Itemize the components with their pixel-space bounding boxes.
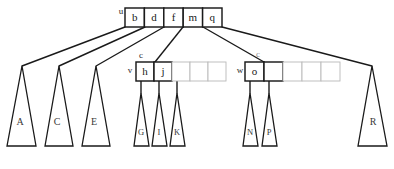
subtree-e-triangle [82, 66, 110, 146]
subtree-g-label: G [138, 127, 144, 137]
node-root: bdfmqu [119, 6, 222, 27]
subtree-i: I [152, 93, 167, 146]
subtree-p: P [262, 93, 277, 146]
node-right_child-cell-4[interactable] [321, 62, 340, 81]
subtree-g: G [134, 93, 149, 146]
nodes-layer: bdfmquhjvcowc [119, 6, 340, 81]
node-left_child-cell-4[interactable] [208, 62, 226, 81]
subtree-r: R [358, 66, 387, 146]
subtree-r-label: R [370, 116, 377, 127]
subtree-k: K [170, 93, 185, 146]
subtree-k-triangle [170, 93, 185, 146]
node-root-key-3: m [189, 11, 198, 23]
subtree-g-triangle [134, 93, 149, 146]
edge-root-to-r [222, 27, 372, 66]
edge-root-to-e [96, 27, 164, 66]
edge-root-to-w [203, 27, 264, 62]
subtree-n-triangle [243, 93, 258, 146]
subtree-n: N [243, 93, 258, 146]
node-root-key-2: f [172, 11, 176, 23]
subtree-e-label: E [91, 116, 97, 127]
subtree-c-label: C [54, 116, 61, 127]
subtree-k-label: K [174, 127, 181, 137]
node-root-key-4: q [210, 11, 216, 23]
btree-canvas: ACEGIKNPR bdfmquhjvcowc [0, 0, 394, 169]
btree-figure: ACEGIKNPR bdfmquhjvcowc [0, 0, 394, 169]
subtree-r-triangle [358, 66, 387, 146]
node-right_child-cell-2[interactable] [283, 62, 302, 81]
node-right_child-cell-1[interactable] [264, 62, 283, 81]
node-right_child-name-label: w [237, 65, 244, 75]
node-left_child-key-1: j [160, 65, 164, 77]
subtree-p-label: P [267, 127, 272, 137]
subtree-a-triangle [7, 66, 36, 146]
edges-layer [22, 27, 372, 93]
subtree-n-label: N [247, 127, 253, 137]
node-left_child: hjvc [128, 50, 226, 81]
node-left_child-cell-2[interactable] [172, 62, 190, 81]
node-root-name-label: u [119, 6, 124, 16]
node-left_child-name-label: v [128, 65, 133, 75]
subtree-p-triangle [262, 93, 277, 146]
subtree-i-triangle [152, 93, 167, 146]
subtree-c-triangle [45, 66, 73, 146]
node-left_child-key-0: h [142, 65, 148, 77]
subtree-a: A [7, 66, 36, 146]
subtree-c: C [45, 66, 73, 146]
node-root-key-0: b [132, 11, 138, 23]
node-root-key-1: d [151, 11, 157, 23]
node-left_child-upper-label: c [139, 50, 143, 60]
node-right_child-key-0: o [252, 65, 258, 77]
subtree-i-label: I [158, 127, 161, 137]
subtree-e: E [82, 66, 110, 146]
node-right_child-cell-3[interactable] [302, 62, 321, 81]
subtree-a-label: A [16, 116, 24, 127]
edge-root-to-v [155, 27, 183, 62]
node-left_child-cell-3[interactable] [190, 62, 208, 81]
node-right_child-upper-label: c [256, 49, 260, 59]
